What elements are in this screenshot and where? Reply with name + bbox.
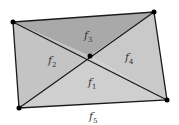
vertex-top-left [11, 20, 16, 25]
vertex-center [88, 54, 93, 59]
vertex-top-right [152, 10, 157, 15]
vertex-bottom-right [165, 98, 170, 103]
face-label-f5: f5 [88, 110, 98, 125]
vertex-bottom-left [17, 106, 22, 111]
planar-graph-diagram: f3 f2 f4 f1 f5 [0, 0, 179, 125]
